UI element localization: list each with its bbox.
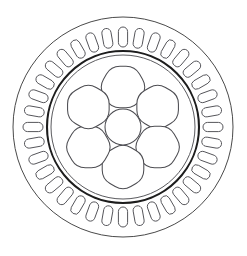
stator-slot — [118, 27, 127, 47]
rotor-flux-hole — [68, 85, 110, 129]
motor-drawing-canvas — [0, 0, 247, 256]
stator-slot — [133, 206, 144, 226]
rotor-flux-hole — [137, 85, 179, 129]
stator-slot — [102, 28, 113, 48]
stator-slot — [133, 28, 144, 48]
stator-slot — [202, 106, 222, 117]
stator-slot — [23, 122, 43, 131]
stator-slot — [24, 137, 44, 148]
stator-slot — [203, 122, 223, 131]
center-shaft-hole — [105, 109, 141, 145]
stator-slot — [118, 207, 127, 227]
rotor-flux-hole — [67, 126, 111, 168]
stator-slot — [102, 206, 113, 226]
motor-cross-section-diagram — [0, 0, 247, 256]
stator-slot — [202, 137, 222, 148]
stator-slot — [24, 106, 44, 117]
